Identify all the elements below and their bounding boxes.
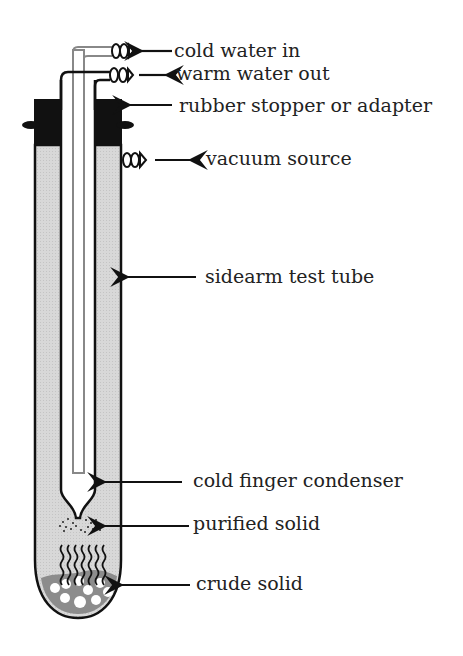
label-purified-solid: purified solid <box>193 512 320 534</box>
vacuum-sidearm-connector <box>123 153 146 167</box>
label-rubber-stopper: rubber stopper or adapter <box>179 94 433 116</box>
label-cold-finger-condenser: cold finger condenser <box>193 469 404 491</box>
sublimation-diagram: cold water in warm water out rubber stop… <box>0 0 463 656</box>
label-vacuum-source: vacuum source <box>205 147 352 169</box>
water-connectors <box>110 44 134 82</box>
label-warm-water-out: warm water out <box>176 62 330 84</box>
cold-finger-condenser <box>61 50 95 518</box>
label-cold-water-in: cold water in <box>174 39 300 61</box>
label-crude-solid: crude solid <box>196 572 303 594</box>
label-sidearm-test-tube: sidearm test tube <box>205 265 374 287</box>
